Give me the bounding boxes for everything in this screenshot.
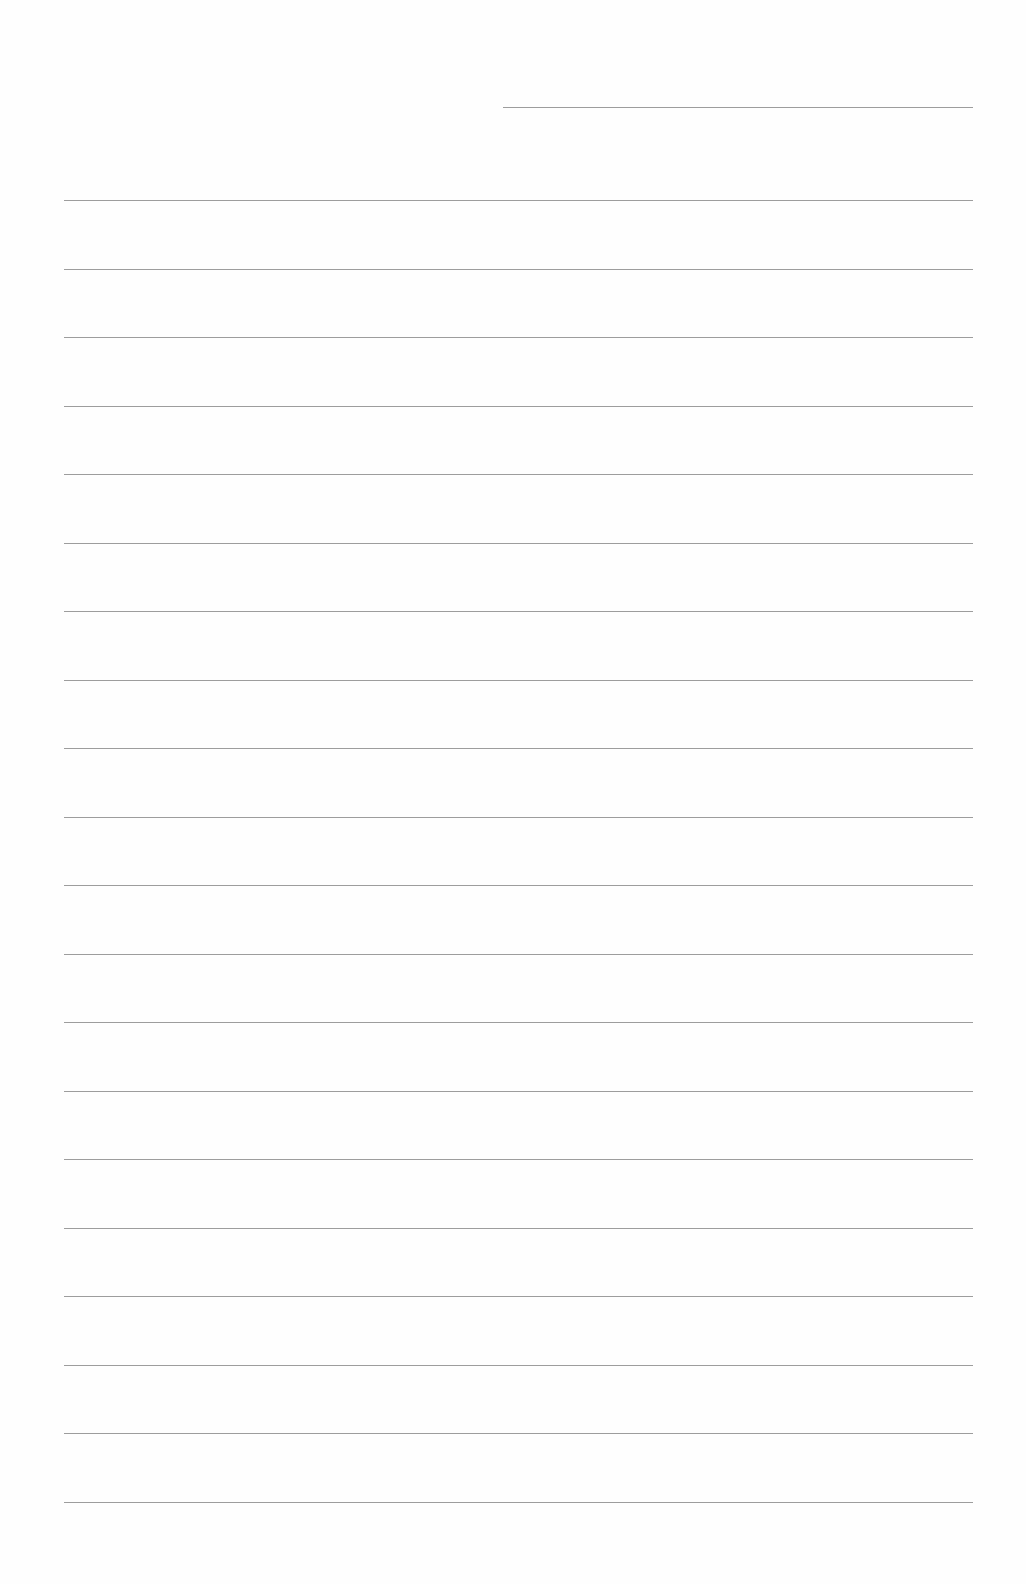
- ruled-line: [64, 1296, 973, 1297]
- ruled-line: [64, 474, 973, 475]
- ruled-line: [64, 885, 973, 886]
- ruled-line: [64, 1502, 973, 1503]
- ruled-line: [64, 680, 973, 681]
- ruled-line: [64, 543, 973, 544]
- ruled-line: [64, 1365, 973, 1366]
- ruled-line: [64, 406, 973, 407]
- ruled-line: [64, 748, 973, 749]
- lined-paper-page: [0, 0, 1026, 1584]
- ruled-line: [64, 1022, 973, 1023]
- ruled-line: [64, 200, 973, 201]
- ruled-line: [64, 1091, 973, 1092]
- ruled-line: [64, 954, 973, 955]
- ruled-line: [64, 337, 973, 338]
- ruled-line: [64, 1159, 973, 1160]
- ruled-line: [64, 269, 973, 270]
- ruled-line: [64, 1433, 973, 1434]
- header-rule-line: [503, 107, 973, 108]
- ruled-line: [64, 611, 973, 612]
- ruled-line: [64, 1228, 973, 1229]
- ruled-line: [64, 817, 973, 818]
